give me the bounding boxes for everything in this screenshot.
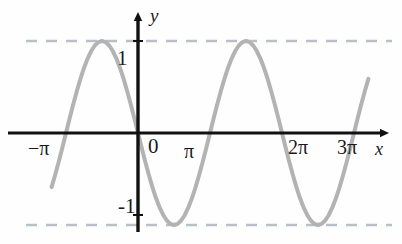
x-tick-label-three-pi: 3π [337,137,357,157]
y-axis-label: y [150,6,158,25]
y-tick-label-minus-1: -1 [118,196,136,217]
y-tick-label-1: 1 [117,48,128,69]
x-tick-label-two-pi: 2π [288,137,308,157]
x-tick-label-minus-pi: −π [28,138,49,158]
x-tick-label-pi: π [184,141,194,161]
x-tick-label-zero: 0 [148,136,159,157]
plot-canvas [0,0,402,244]
sine-graph-figure: y x 1 -1 −π 0 π 2π 3π [0,0,402,244]
x-axis-label: x [375,140,383,158]
